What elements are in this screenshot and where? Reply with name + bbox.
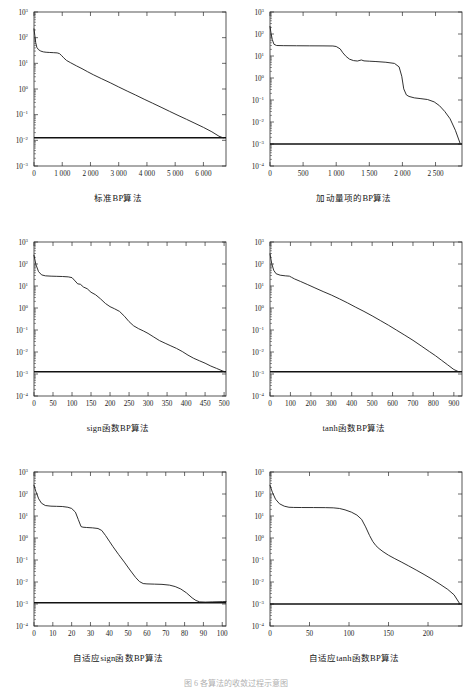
chart-cell-adaptive-sign-bp: 10310210110010−110−210−310−4010203040506… [0, 460, 236, 690]
x-tick-label: 80 [181, 630, 189, 638]
series-line [270, 26, 460, 143]
plot-momentum-bp: 10310210110010−110−210−310−405001 0001 5… [236, 0, 472, 196]
chart-svg-adaptive-tanh-bp: 10310210110010−110−210−310−4050100150200 [236, 460, 472, 656]
y-tick-label: 101 [254, 52, 264, 61]
x-tick-label: 2 000 [82, 170, 99, 178]
x-tick-label: 200 [105, 400, 116, 408]
x-tick-label: 0 [32, 400, 36, 408]
x-tick-label: 2 000 [394, 170, 411, 178]
y-tick-label: 100 [254, 74, 264, 83]
y-tick-label: 103 [254, 8, 264, 17]
y-tick-label: 101 [254, 512, 264, 521]
y-tick-label: 100 [18, 304, 28, 313]
y-tick-label: 10−2 [252, 578, 265, 587]
x-tick-label: 150 [383, 630, 394, 638]
x-tick-label: 4 000 [139, 170, 156, 178]
y-tick-label: 10−4 [16, 622, 29, 631]
y-tick-label: 10−1 [252, 326, 265, 335]
x-tick-label: 10 [49, 630, 57, 638]
x-tick-label: 500 [298, 170, 309, 178]
plot-frame [270, 12, 462, 166]
x-tick-label: 150 [86, 400, 97, 408]
y-tick-label: 102 [18, 260, 28, 269]
plot-standard-bp: 10310210110010−110−210−301 0002 0003 000… [0, 0, 236, 196]
y-tick-label: 103 [18, 8, 28, 17]
series-line [34, 485, 226, 602]
chart-cell-sign-bp: 10310210110010−110−210−310−4050100150200… [0, 230, 236, 460]
x-tick-label: 100 [344, 630, 355, 638]
x-tick-label: 2 500 [427, 170, 444, 178]
plot-tanh-bp: 10310210110010−110−210−310−4010020030040… [236, 230, 472, 426]
chart-title-sign-bp: sign函数BP算法 [0, 421, 236, 433]
y-tick-label: 100 [254, 534, 264, 543]
x-tick-label: 6 000 [195, 170, 212, 178]
y-tick-label: 10−2 [252, 118, 265, 127]
y-tick-label: 10−3 [252, 600, 265, 609]
figure-grid: 10310210110010−110−210−301 0002 0003 000… [0, 0, 472, 690]
y-tick-label: 10−3 [252, 370, 265, 379]
y-tick-label: 101 [254, 282, 264, 291]
x-tick-label: 100 [217, 630, 228, 638]
y-tick-label: 102 [18, 33, 28, 42]
y-tick-label: 10−2 [252, 348, 265, 357]
x-tick-label: 100 [67, 400, 78, 408]
y-tick-label: 102 [254, 490, 264, 499]
series-line [34, 255, 225, 372]
plot-frame [34, 242, 226, 396]
plot-frame [34, 12, 226, 166]
series-line [34, 29, 223, 138]
series-line [270, 485, 460, 603]
x-tick-label: 700 [408, 400, 419, 408]
x-tick-label: 50 [49, 400, 57, 408]
chart-svg-momentum-bp: 10310210110010−110−210−310−405001 0001 5… [236, 0, 472, 196]
y-tick-label: 102 [254, 260, 264, 269]
chart-cell-tanh-bp: 10310210110010−110−210−310−4010020030040… [236, 230, 472, 460]
x-tick-label: 100 [285, 400, 296, 408]
y-tick-label: 10−4 [252, 622, 265, 631]
x-tick-label: 400 [181, 400, 192, 408]
y-tick-label: 10−3 [252, 140, 265, 149]
chart-title-tanh-bp: tanh函数BP算法 [236, 421, 472, 433]
y-tick-label: 102 [254, 30, 264, 39]
y-tick-label: 10−3 [16, 600, 29, 609]
chart-title-standard-bp: 标准BP算法 [0, 191, 236, 203]
chart-svg-standard-bp: 10310210110010−110−210−301 0002 0003 000… [0, 0, 236, 196]
y-tick-label: 100 [18, 534, 28, 543]
y-tick-label: 10−4 [16, 392, 29, 401]
plot-sign-bp: 10310210110010−110−210−310−4050100150200… [0, 230, 236, 426]
x-tick-label: 0 [32, 170, 36, 178]
y-tick-label: 10−1 [252, 96, 265, 105]
x-tick-label: 300 [143, 400, 154, 408]
series-line [270, 254, 459, 372]
x-tick-label: 0 [268, 400, 272, 408]
y-tick-label: 100 [18, 85, 28, 94]
y-tick-label: 103 [18, 468, 28, 477]
x-tick-label: 0 [268, 630, 272, 638]
y-tick-label: 10−2 [16, 348, 29, 357]
x-tick-label: 1 000 [328, 170, 345, 178]
plot-adaptive-tanh-bp: 10310210110010−110−210−310−4050100150200 [236, 460, 472, 656]
x-tick-label: 1 000 [54, 170, 71, 178]
plot-frame [270, 242, 462, 396]
x-tick-label: 50 [306, 630, 314, 638]
x-tick-label: 800 [428, 400, 439, 408]
y-tick-label: 10−4 [252, 162, 265, 171]
y-tick-label: 10−3 [16, 370, 29, 379]
y-tick-label: 101 [18, 59, 28, 68]
chart-title-adaptive-sign-bp: 自适应sign函数BP算法 [0, 651, 236, 663]
x-tick-label: 400 [346, 400, 357, 408]
x-tick-label: 0 [32, 630, 36, 638]
page-bottom-caption: 图 6 各算法的收敛过程示意图 [0, 677, 472, 688]
y-tick-label: 103 [18, 238, 28, 247]
x-tick-label: 3 000 [111, 170, 128, 178]
x-tick-label: 0 [268, 170, 272, 178]
chart-svg-sign-bp: 10310210110010−110−210−310−4050100150200… [0, 230, 236, 426]
y-tick-label: 10−1 [16, 110, 29, 119]
chart-title-adaptive-tanh-bp: 自适应tanh函数BP算法 [236, 651, 472, 663]
y-tick-label: 10−1 [16, 326, 29, 335]
x-tick-label: 450 [200, 400, 211, 408]
x-tick-label: 250 [124, 400, 135, 408]
plot-frame [270, 472, 462, 626]
x-tick-label: 50 [125, 630, 133, 638]
y-tick-label: 10−2 [16, 578, 29, 587]
